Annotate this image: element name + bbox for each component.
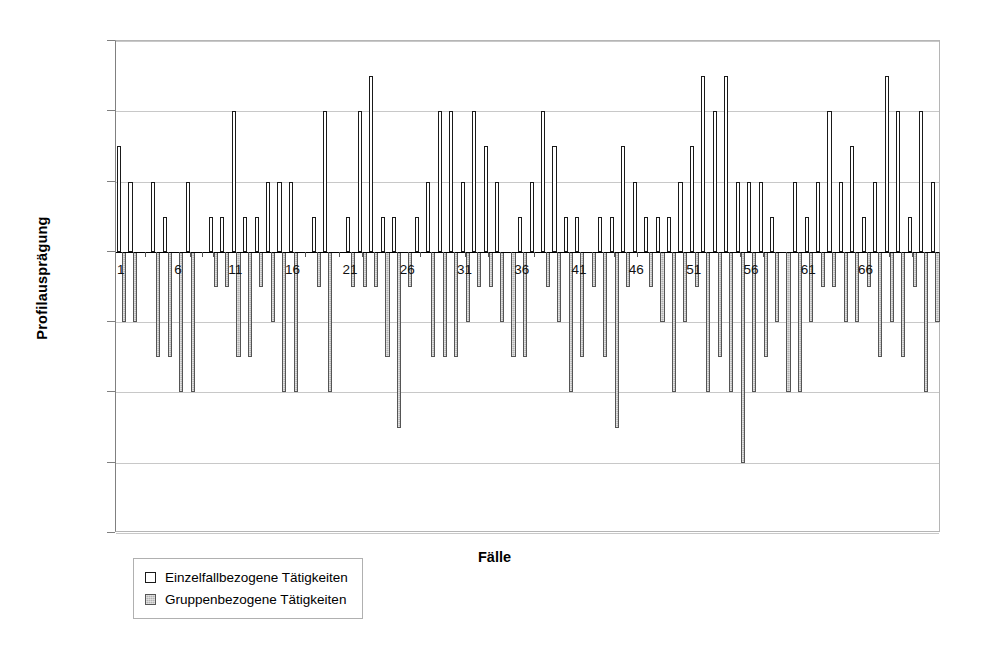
x-tick-mark [374, 252, 375, 257]
x-tick-mark [878, 252, 879, 257]
bar-einzelfallbezogene [701, 76, 705, 252]
legend-item-einzelfallbezogene[interactable]: Einzelfallbezogene Tätigkeiten [145, 566, 348, 588]
bar-einzelfallbezogene [255, 217, 259, 252]
bar-einzelfallbezogene [472, 111, 476, 252]
bar-einzelfallbezogene [289, 182, 293, 252]
bar-gruppenbezogene [672, 252, 676, 393]
bar-gruppenbezogene [615, 252, 619, 428]
bar-einzelfallbezogene [644, 217, 648, 252]
bar-einzelfallbezogene [770, 217, 774, 252]
bar-einzelfallbezogene [896, 111, 900, 252]
y-tick-mark [107, 321, 115, 322]
x-tick-mark [397, 252, 398, 257]
bar-einzelfallbezogene [438, 111, 442, 252]
x-tick-mark [248, 252, 249, 257]
y-tick-mark [107, 181, 115, 182]
x-tick-mark [546, 252, 547, 257]
x-tick-mark [145, 252, 146, 257]
x-tick-label: 1 [106, 263, 136, 277]
bar-einzelfallbezogene [243, 217, 247, 252]
x-tick-mark [534, 252, 535, 257]
bar-gruppenbezogene [156, 252, 160, 357]
x-tick-label: 56 [736, 263, 766, 277]
y-tick-mark [107, 40, 115, 41]
bar-gruppenbezogene [500, 252, 504, 322]
x-tick-mark [901, 252, 902, 257]
bar-einzelfallbezogene [186, 182, 190, 252]
x-tick-mark [649, 252, 650, 257]
bar-einzelfallbezogene [518, 217, 522, 252]
x-tick-mark [202, 252, 203, 257]
legend-item-gruppenbezogene[interactable]: Gruppenbezogene Tätigkeiten [145, 588, 348, 610]
bar-gruppenbezogene [603, 252, 607, 357]
bar-einzelfallbezogene [312, 217, 316, 252]
x-tick-mark [763, 252, 764, 257]
x-tick-label: 16 [278, 263, 308, 277]
bar-einzelfallbezogene [369, 76, 373, 252]
bar-gruppenbezogene [660, 252, 664, 322]
x-tick-mark [935, 252, 936, 257]
x-tick-mark [294, 252, 295, 257]
x-tick-mark [855, 252, 856, 257]
bar-einzelfallbezogene [575, 217, 579, 252]
legend-item-label: Einzelfallbezogene Tätigkeiten [165, 570, 348, 585]
bar-einzelfallbezogene [358, 111, 362, 252]
x-tick-mark [729, 252, 730, 257]
bar-gruppenbezogene [901, 252, 905, 357]
bar-einzelfallbezogene [873, 182, 877, 252]
bar-gruppenbezogene [844, 252, 848, 322]
bar-gruppenbezogene [443, 252, 447, 357]
x-tick-mark [832, 252, 833, 257]
bar-gruppenbezogene [913, 252, 917, 287]
gridline [116, 41, 939, 42]
x-tick-label: 6 [163, 263, 193, 277]
bar-einzelfallbezogene [266, 182, 270, 252]
x-tick-mark [775, 252, 776, 257]
bar-einzelfallbezogene [277, 182, 281, 252]
y-tick-mark [107, 532, 115, 533]
bar-gruppenbezogene [924, 252, 928, 393]
x-tick-mark [225, 252, 226, 257]
bar-einzelfallbezogene [564, 217, 568, 252]
bar-einzelfallbezogene [839, 182, 843, 252]
x-tick-mark [614, 252, 615, 257]
x-tick-label: 66 [851, 263, 881, 277]
bar-einzelfallbezogene [827, 111, 831, 252]
plot-area [115, 40, 940, 532]
bar-einzelfallbezogene [690, 146, 694, 251]
x-tick-mark [809, 252, 810, 257]
x-tick-mark [362, 252, 363, 257]
bar-gruppenbezogene [557, 252, 561, 322]
bar-einzelfallbezogene [793, 182, 797, 252]
x-tick-label: 11 [220, 263, 250, 277]
bar-einzelfallbezogene [919, 111, 923, 252]
y-tick-mark [107, 462, 115, 463]
x-tick-mark [500, 252, 501, 257]
bar-einzelfallbezogene [713, 111, 717, 252]
x-tick-label: 26 [392, 263, 422, 277]
bar-einzelfallbezogene [633, 182, 637, 252]
x-tick-mark [156, 252, 157, 257]
x-tick-mark [431, 252, 432, 257]
bar-einzelfallbezogene [461, 182, 465, 252]
x-tick-mark [557, 252, 558, 257]
bar-gruppenbezogene [729, 252, 733, 393]
x-tick-mark [420, 252, 421, 257]
x-tick-mark [465, 252, 466, 257]
bar-gruppenbezogene [431, 252, 435, 357]
bar-einzelfallbezogene [209, 217, 213, 252]
bar-einzelfallbezogene [816, 182, 820, 252]
x-tick-mark [454, 252, 455, 257]
bar-gruppenbezogene [328, 252, 332, 393]
y-tick-mark [107, 391, 115, 392]
chart-legend: Einzelfallbezogene Tätigkeiten Gruppenbe… [133, 558, 363, 619]
bar-einzelfallbezogene [541, 111, 545, 252]
bar-einzelfallbezogene [805, 217, 809, 252]
bar-gruppenbezogene [271, 252, 275, 322]
x-tick-label: 36 [507, 263, 537, 277]
x-tick-mark [867, 252, 868, 257]
x-tick-mark [718, 252, 719, 257]
bar-einzelfallbezogene [117, 146, 121, 251]
bar-einzelfallbezogene [449, 111, 453, 252]
bar-einzelfallbezogene [495, 182, 499, 252]
